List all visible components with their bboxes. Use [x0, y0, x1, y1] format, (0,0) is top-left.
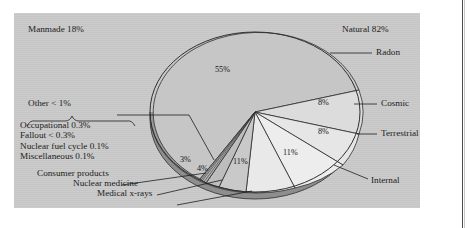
leader-internal	[334, 165, 368, 179]
label-terrestrial: Terrestrial	[381, 128, 419, 138]
label-medical-xrays: Medical x-rays	[97, 188, 152, 198]
other-item-nuclear-fuel-cycle: Nuclear fuel cycle 0.1%	[20, 141, 109, 151]
label-consumer-products: Consumer products	[37, 168, 109, 178]
value-consumer-products: 3%	[180, 155, 191, 164]
value-internal: 11%	[283, 148, 298, 157]
label-other: Other < 1%	[28, 98, 71, 108]
other-item-occupational: Occupational 0.3%	[20, 120, 109, 130]
value-nuclear-medicine: 4%	[197, 164, 208, 173]
label-internal: Internal	[371, 175, 400, 185]
page-edge-rule	[462, 0, 463, 228]
other-item-miscellaneous: Miscellaneous 0.1%	[20, 151, 109, 161]
figure-root: Manmade 18% Natural 82% Radon Cosmic Ter…	[0, 0, 473, 228]
group-label-manmade: Manmade 18%	[28, 24, 84, 34]
value-terrestrial: 8%	[318, 127, 329, 136]
label-cosmic: Cosmic	[381, 98, 409, 108]
pie-slices	[153, 32, 363, 192]
page-edge-rule-shadow	[464, 0, 465, 228]
value-medical-xrays: 11%	[233, 157, 248, 166]
value-radon: 55%	[215, 65, 230, 74]
value-cosmic: 8%	[318, 98, 329, 107]
label-radon: Radon	[376, 47, 400, 57]
other-breakdown-list: Occupational 0.3% Fallout < 0.3% Nuclear…	[20, 120, 109, 162]
label-nuclear-medicine: Nuclear medicine	[73, 178, 138, 188]
other-item-fallout: Fallout < 0.3%	[20, 130, 109, 140]
group-label-natural: Natural 82%	[342, 24, 389, 34]
